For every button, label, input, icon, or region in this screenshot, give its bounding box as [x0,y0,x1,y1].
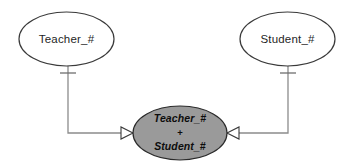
er-diagram-canvas: Teacher_# Student_# Teacher_# + Student_… [0,0,356,167]
arrowhead-open-triangle-student [227,127,239,139]
relationship-label-line1: Teacher_# [154,112,207,124]
entity-node-teacher[interactable]: Teacher_# [19,12,114,66]
er-diagram-svg: Teacher_# Student_# Teacher_# + Student_… [0,0,356,167]
relationship-label-line2: Student_# [154,140,206,152]
entity-label-student: Student_# [260,33,315,45]
connector-line-teacher [68,66,133,133]
entity-label-teacher: Teacher_# [39,33,95,45]
relationship-label-operator: + [177,127,183,138]
arrowhead-open-triangle-teacher [121,127,133,139]
entity-node-student[interactable]: Student_# [240,12,335,66]
connector-teacher-to-relationship [60,66,133,139]
connector-student-to-relationship [227,66,296,139]
connector-line-student [227,66,288,133]
relationship-node-teacher-student[interactable]: Teacher_# + Student_# [133,106,227,160]
